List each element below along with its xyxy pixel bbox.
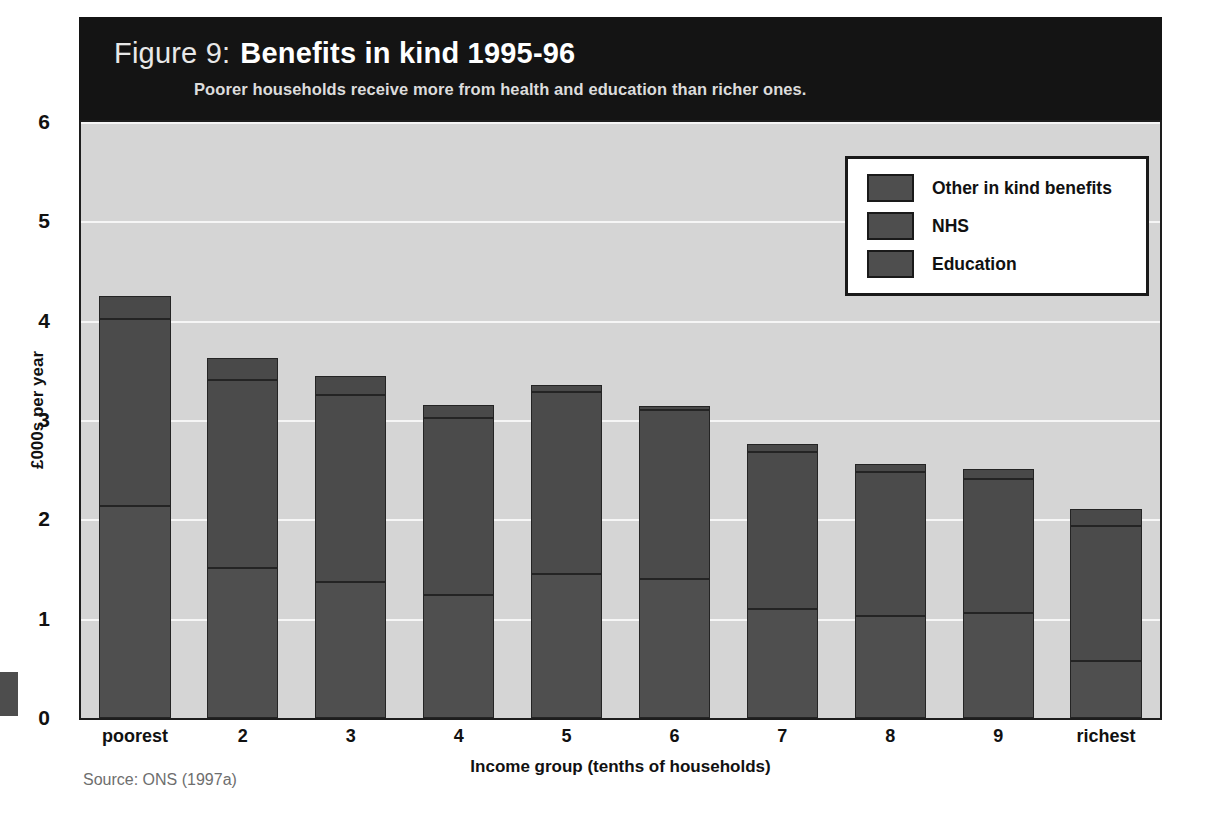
y-axis-tick-label: 2 (10, 507, 50, 531)
x-axis-tick-label: 2 (238, 726, 248, 747)
y-axis-ticks: 6543210 (0, 0, 1212, 814)
x-axis-tick-label: 6 (669, 726, 679, 747)
y-axis-tick-label: 5 (10, 209, 50, 233)
x-axis-tick-label: poorest (102, 726, 168, 747)
source-note: Source: ONS (1997a) (83, 771, 237, 789)
x-axis-tick-label: 7 (777, 726, 787, 747)
x-axis-tick-label: 3 (346, 726, 356, 747)
figure-container: Figure 9:Benefits in kind 1995-96 Poorer… (0, 0, 1212, 814)
x-axis-tick-label: 8 (885, 726, 895, 747)
y-axis-title: £000s per year (28, 310, 48, 510)
y-axis-tick-label: 1 (10, 607, 50, 631)
x-axis-tick-label: 9 (993, 726, 1003, 747)
x-axis-title: Income group (tenths of households) (79, 757, 1162, 777)
x-axis-tick-label: richest (1077, 726, 1136, 747)
y-axis-tick-label: 6 (10, 110, 50, 134)
x-axis-tick-label: 5 (562, 726, 572, 747)
x-axis-tick-label: 4 (454, 726, 464, 747)
y-axis-tick-label: 0 (10, 706, 50, 730)
